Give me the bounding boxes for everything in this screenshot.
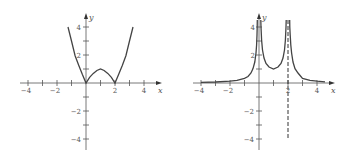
y-tick-label-m2: −2 [244,108,254,116]
x-axis-arrow-icon [329,81,335,85]
y-axis-arrow-icon [84,13,88,19]
y-axis-arrow-icon [257,13,261,19]
x-tick-label-4: 4 [142,87,147,95]
y-tick-label-2: 2 [251,52,255,60]
x-axis-label: x [158,86,163,95]
left-graph [20,13,162,150]
y-axis-label: y [261,13,267,22]
x-tick-label-2: 2 [113,87,117,95]
x-tick-label-m4: −4 [194,87,205,95]
x-tick-label-m2: −2 [223,87,233,95]
x-tick-label-m4: −4 [21,87,32,95]
x-axis-label: x [331,86,336,95]
y-tick-label-2: 2 [77,52,81,60]
y-tick-label-m4: −4 [244,136,255,144]
y-axis-label: y [88,13,94,22]
figure: −4 −2 2 4 x y 4 2 −2 −4 −4 −2 2 4 x y 4 [0,0,349,162]
y-tick-label-m4: −4 [71,136,82,144]
y-tick-label-4: 4 [251,24,256,32]
curve-middle-branch [261,20,286,69]
x-tick-label-4: 4 [315,87,320,95]
curve-left-branch [201,20,257,82]
x-tick-label-2: 2 [286,87,290,95]
y-tick-label-4: 4 [77,24,82,32]
right-graph [193,13,335,150]
x-tick-label-m2: −2 [50,87,60,95]
x-axis-arrow-icon [156,81,162,85]
curve-right-branch [290,20,325,82]
y-tick-label-m2: −2 [71,108,81,116]
